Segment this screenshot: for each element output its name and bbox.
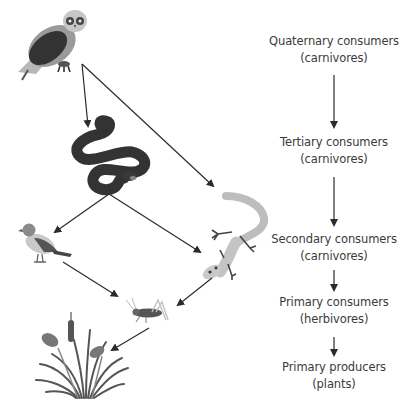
level-subtitle: (herbivores): [249, 311, 415, 328]
plants-icon: [36, 312, 128, 398]
owl-icon: [18, 10, 87, 80]
level-tertiary-consumers: Tertiary consumers (carnivores): [249, 134, 415, 168]
level-title: Quaternary consumers: [249, 33, 415, 50]
food-web-arrows: [55, 64, 213, 350]
level-primary-producers: Primary producers (plants): [249, 359, 415, 393]
level-primary-consumers: Primary consumers (herbivores): [249, 294, 415, 328]
level-quaternary-consumers: Quaternary consumers (carnivores): [249, 33, 415, 67]
snake-icon: [77, 121, 145, 190]
arrow-lizard-to-grasshopper: [178, 278, 212, 305]
grasshopper-icon: [126, 298, 168, 323]
level-title: Primary producers: [249, 359, 415, 376]
level-subtitle: (carnivores): [249, 50, 415, 67]
level-secondary-consumers: Secondary consumers (carnivores): [249, 231, 415, 265]
level-title: Primary consumers: [249, 294, 415, 311]
bird-icon: [18, 224, 72, 263]
level-subtitle: (carnivores): [249, 151, 415, 168]
level-title: Tertiary consumers: [249, 134, 415, 151]
arrow-owl-to-snake: [82, 64, 88, 126]
arrow-snake-to-lizard: [109, 194, 200, 252]
arrow-bird-to-grasshopper: [63, 262, 117, 296]
arrow-snake-to-bird: [55, 194, 109, 232]
level-title: Secondary consumers: [249, 231, 415, 248]
level-subtitle: (carnivores): [249, 248, 415, 265]
level-subtitle: (plants): [249, 376, 415, 393]
arrow-grasshopper-to-plants: [112, 328, 149, 350]
food-web-diagram: Quaternary consumers (carnivores) Tertia…: [0, 0, 415, 413]
